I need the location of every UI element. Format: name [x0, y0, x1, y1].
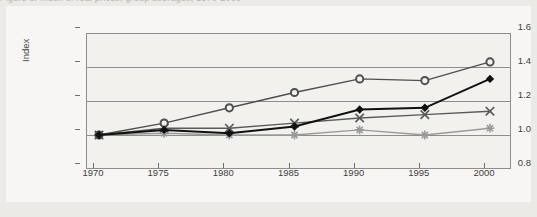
gridline [87, 67, 510, 68]
figure-caption-clipped: Figure 3. Index of real prices, group av… [0, 0, 537, 3]
y-axis-tick-mark [75, 95, 80, 96]
y-axis-tick-label: 1.6 [30, 21, 531, 32]
x-axis-tick-label: 1980 [213, 167, 234, 178]
x-axis-tick-label: 1990 [343, 167, 364, 178]
y-axis-tick-mark [75, 61, 80, 62]
gridline [87, 33, 510, 34]
x-axis-tick-label: 1970 [82, 167, 103, 178]
y-axis-tick-label: 1.0 [30, 123, 531, 134]
y-axis-tick-mark [75, 129, 80, 130]
x-axis-tick-label: 1985 [278, 167, 299, 178]
y-axis-tick-mark [75, 27, 80, 28]
figure-page: Figure 3. Index of real prices, group av… [0, 0, 537, 217]
gridline [87, 101, 510, 102]
plot-area [86, 33, 511, 169]
x-axis-tick-label: 1975 [148, 167, 169, 178]
y-axis-tick-label: 1.2 [30, 89, 531, 100]
gridline [87, 135, 510, 136]
y-axis-tick-label: 1.4 [30, 55, 531, 66]
chart-panel: Index 0.81.01.21.41.61970197519801985199… [6, 6, 531, 202]
y-axis-tick-mark [75, 163, 80, 164]
x-axis-tick-label: 2000 [473, 167, 494, 178]
x-axis-tick-label: 1995 [408, 167, 429, 178]
